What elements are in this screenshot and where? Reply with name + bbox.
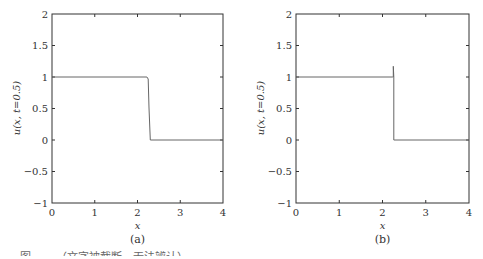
caption-text: 图 ……（文字被截断，无法辨认） — [20, 248, 189, 256]
series-line-b — [296, 66, 469, 140]
svg-text:1: 1 — [42, 72, 48, 83]
svg-text:0: 0 — [42, 135, 48, 146]
plot-frame-a — [52, 14, 223, 203]
svg-text:2: 2 — [42, 9, 48, 20]
svg-text:1: 1 — [92, 207, 98, 218]
svg-text:−0.5: −0.5 — [268, 166, 292, 177]
y-axis-label-b: u(x, t=0.5) — [255, 81, 266, 136]
svg-text:3: 3 — [177, 207, 183, 218]
svg-text:2: 2 — [134, 207, 140, 218]
panel-a: 2 1.5 1 0.5 0 −0.5 −1 0 1 2 3 4 x u(x, t… — [11, 9, 226, 246]
x-axis-label-b: x — [380, 220, 386, 231]
panel-label-b: (b) — [375, 233, 391, 246]
y-ticks-a — [52, 46, 223, 172]
plot-frame-b — [296, 14, 469, 203]
series-line-a — [52, 77, 223, 140]
svg-text:1: 1 — [336, 207, 342, 218]
x-ticks-b — [339, 14, 426, 203]
svg-text:3: 3 — [423, 207, 429, 218]
svg-text:4: 4 — [466, 207, 472, 218]
svg-text:1: 1 — [286, 72, 292, 83]
figure-caption: 图 ……（文字被截断，无法辨认） — [0, 248, 483, 256]
svg-text:0: 0 — [286, 135, 292, 146]
svg-text:−0.5: −0.5 — [24, 166, 48, 177]
svg-text:4: 4 — [220, 207, 226, 218]
svg-text:0.5: 0.5 — [276, 103, 292, 114]
y-ticks-b — [296, 46, 469, 172]
svg-text:1.5: 1.5 — [32, 40, 48, 51]
svg-text:0: 0 — [49, 207, 55, 218]
y-tick-labels-b: 2 1.5 1 0.5 0 −0.5 −1 — [268, 9, 292, 209]
svg-text:0: 0 — [293, 207, 299, 218]
x-axis-label-a: x — [135, 220, 141, 231]
svg-text:−1: −1 — [33, 198, 48, 209]
x-ticks-a — [95, 14, 181, 203]
svg-text:2: 2 — [379, 207, 385, 218]
x-tick-labels-a: 0 1 2 3 4 — [49, 207, 226, 218]
svg-text:0.5: 0.5 — [32, 103, 48, 114]
svg-text:−1: −1 — [277, 198, 292, 209]
panel-b: 2 1.5 1 0.5 0 −0.5 −1 0 1 2 3 4 x u(x, t… — [255, 9, 472, 246]
svg-text:1.5: 1.5 — [276, 40, 292, 51]
panel-label-a: (a) — [130, 233, 145, 246]
y-axis-label-a: u(x, t=0.5) — [11, 81, 22, 136]
x-tick-labels-b: 0 1 2 3 4 — [293, 207, 472, 218]
svg-text:2: 2 — [286, 9, 292, 20]
y-tick-labels-a: 2 1.5 1 0.5 0 −0.5 −1 — [24, 9, 48, 209]
